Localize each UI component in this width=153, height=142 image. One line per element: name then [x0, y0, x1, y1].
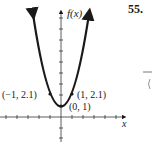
exercise-number: 55. — [128, 2, 143, 16]
y-axis-label: f(x) — [67, 7, 83, 20]
point-left-label: (−1, 2.1) — [2, 89, 37, 101]
neighbor-fragment-paren — [149, 79, 151, 89]
graph-figure: f(x) x (−1, 2.1) (1, 2.1) (0, 1) 55. — [0, 0, 153, 142]
point-vertex-marker — [59, 104, 62, 107]
x-axis — [0, 115, 124, 119]
neighbor-fragment — [143, 72, 152, 89]
point-vertex-label: (0, 1) — [69, 101, 91, 113]
x-axis-label: x — [121, 118, 127, 129]
point-left-marker — [48, 92, 51, 95]
point-right-label: (1, 2.1) — [77, 89, 106, 101]
point-right-marker — [70, 92, 73, 95]
y-axis — [59, 12, 63, 142]
